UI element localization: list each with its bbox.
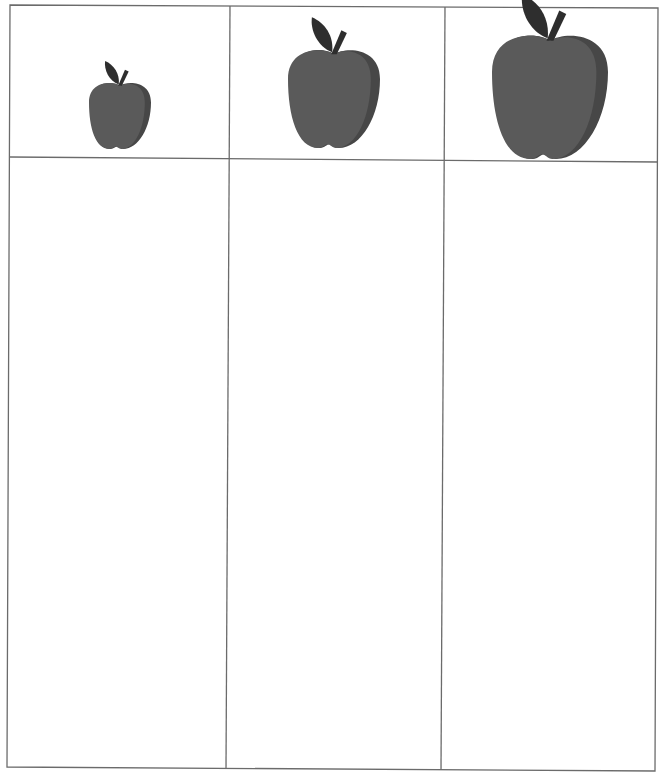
answer-cell-medium[interactable] <box>230 164 439 768</box>
answer-cell-large[interactable] <box>445 166 653 768</box>
apple-icon-small <box>89 61 151 149</box>
apple-icon-medium <box>288 17 380 148</box>
apple-icon-large <box>492 0 608 159</box>
answer-cell-small[interactable] <box>12 162 224 766</box>
